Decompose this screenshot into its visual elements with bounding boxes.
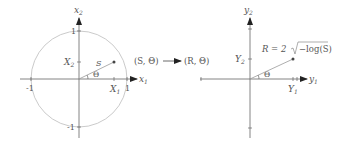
angle-arc-right: [258, 75, 259, 79]
Y2-label: Y2: [235, 54, 245, 65]
X1-label: X1: [109, 84, 120, 95]
x1-axis-label: x1: [139, 74, 148, 85]
tick-label-pos-x: 1: [125, 84, 130, 93]
x2-axis-label: x2: [74, 5, 83, 16]
tick-label-neg-x: -1: [26, 84, 34, 93]
box-muller-diagram: x2 x1 1 -1 1 -1 X1 X2 S Θ (S, Θ) (R, Θ) …: [0, 0, 341, 148]
theta-label-left: Θ: [93, 70, 99, 79]
right-plot: y2 y1 Y1 Y2 R = 2 −log(S) Θ: [200, 5, 332, 138]
S-label: S: [96, 59, 102, 68]
Y1-label: Y1: [288, 84, 298, 95]
y2-axis-label: y2: [243, 5, 253, 16]
sample-point: [113, 61, 116, 64]
theta-label-right: Θ: [264, 70, 270, 79]
angle-arc: [87, 75, 88, 79]
left-plot: x2 x1 1 -1 1 -1 X1 X2 S Θ: [20, 5, 148, 138]
tick-label-neg-y: -1: [67, 123, 75, 132]
source-pair: (S, Θ): [134, 56, 159, 66]
X2-label: X2: [63, 57, 74, 68]
R-formula-prefix: R = 2: [261, 44, 286, 54]
transform-mapping: (S, Θ) (R, Θ): [134, 56, 209, 66]
R-formula-radicand: −log(S): [299, 44, 332, 54]
y1-axis-label: y1: [308, 74, 318, 85]
radius-R-segment: [250, 59, 293, 79]
transformed-point: [292, 58, 295, 61]
tick-label-pos-y: 1: [71, 27, 76, 36]
target-pair: (R, Θ): [184, 56, 209, 66]
